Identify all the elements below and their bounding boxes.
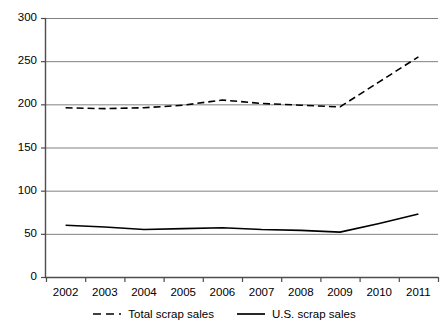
y-axis-tick-label: 50 xyxy=(24,228,37,240)
solid-line-icon xyxy=(236,309,266,319)
line-chart: 050100150200250300 200220032004200520062… xyxy=(0,0,448,328)
x-axis-tick-label: 2004 xyxy=(124,287,163,299)
y-axis-tick-label: 200 xyxy=(18,98,37,110)
y-axis-tick-label: 300 xyxy=(18,12,37,24)
dashed-line-icon xyxy=(92,309,122,319)
gridlines-group xyxy=(46,19,438,235)
x-axis-tick-label: 2007 xyxy=(242,287,281,299)
x-axis-tick-label: 2008 xyxy=(281,287,320,299)
x-axis-tick-label: 2010 xyxy=(360,287,399,299)
chart-legend: Total scrap sales U.S. scrap sales xyxy=(0,303,448,325)
y-axis-tick-label: 0 xyxy=(31,271,37,283)
x-axis-tick-label: 2002 xyxy=(46,287,85,299)
series-line-total-scrap-sales xyxy=(66,57,419,109)
x-axis-tick-label: 2006 xyxy=(203,287,242,299)
legend-item-total-scrap-sales[interactable]: Total scrap sales xyxy=(92,308,214,320)
series-line-us-scrap-sales xyxy=(66,214,419,232)
y-axis-tick-label: 100 xyxy=(18,185,37,197)
y-axis-tick-label: 250 xyxy=(18,55,37,67)
x-axis-tick-label: 2011 xyxy=(399,287,438,299)
x-axis-tick-label: 2009 xyxy=(320,287,359,299)
legend-label-total-scrap-sales: Total scrap sales xyxy=(128,308,214,320)
legend-label-us-scrap-sales: U.S. scrap sales xyxy=(272,308,356,320)
x-axis-tick-label: 2005 xyxy=(164,287,203,299)
y-axis-tick-label: 150 xyxy=(18,142,37,154)
plot-area xyxy=(0,0,448,328)
legend-item-us-scrap-sales[interactable]: U.S. scrap sales xyxy=(236,308,356,320)
x-axis-tick-label: 2003 xyxy=(85,287,124,299)
